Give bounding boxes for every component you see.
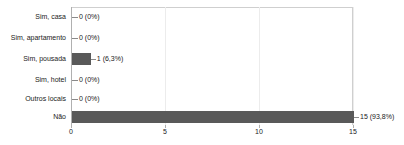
label-leader-line [72, 38, 78, 39]
bar-row: Outros locais0 (0%) [0, 89, 404, 109]
bar-row: Não15 (93,8%) [0, 107, 404, 127]
category-label: Sim, hotel [0, 70, 66, 90]
x-tick-label: 0 [69, 128, 73, 135]
label-leader-line [72, 17, 78, 18]
label-leader-line [354, 117, 359, 118]
bar-row: Sim, pousada1 (6,3%) [0, 49, 404, 69]
category-label: Não [0, 107, 66, 127]
category-label: Sim, casa [0, 7, 66, 27]
x-tick-label: 15 [349, 128, 357, 135]
bar-chart: Sim, casa0 (0%)Sim, apartamento0 (0%)Sim… [0, 0, 404, 145]
x-tick-label: 5 [163, 128, 167, 135]
category-label: Outros locais [0, 89, 66, 109]
label-leader-line [72, 80, 78, 81]
value-label: 0 (0%) [79, 89, 100, 109]
value-label: 15 (93,8%) [360, 107, 394, 127]
value-label: 0 (0%) [79, 7, 100, 27]
x-tick-label: 10 [255, 128, 263, 135]
bar-row: Sim, hotel0 (0%) [0, 70, 404, 90]
bar-row: Sim, apartamento0 (0%) [0, 28, 404, 48]
category-label: Sim, apartamento [0, 28, 66, 48]
label-leader-line [91, 59, 96, 60]
category-label: Sim, pousada [0, 49, 66, 69]
value-label: 0 (0%) [79, 28, 100, 48]
value-label: 1 (6,3%) [97, 49, 123, 69]
bar-row: Sim, casa0 (0%) [0, 7, 404, 27]
label-leader-line [72, 99, 78, 100]
bar [72, 53, 91, 65]
bar [72, 111, 354, 123]
value-label: 0 (0%) [79, 70, 100, 90]
